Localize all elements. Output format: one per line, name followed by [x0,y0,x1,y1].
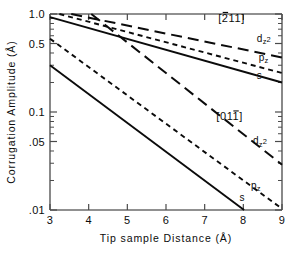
corrugation-amplitude-chart: 34567891.00.50.1.05.01 dz2pzs[211]dz2pzs… [0,0,296,257]
x-tick-label: 4 [85,214,91,226]
x-tick-label: 6 [163,214,169,226]
x-tick-label: 9 [279,214,285,226]
series-label-s: s [239,192,244,203]
curve-211-dz2 [71,14,282,57]
curve-annotations: dz2pzs[211]dz2pzs[011] [216,12,271,203]
curve-211-pz [59,14,282,73]
series-label-s: s [257,70,262,81]
y-tick-label: 1.0 [29,8,45,20]
plot-frame [50,14,282,210]
curve-011-pz [50,39,282,209]
y-tick-label: .01 [29,204,45,216]
y-axis-title: Corrugation Amplitude (Å) [5,40,17,183]
y-tick-label: 0.5 [29,38,45,50]
y-tick-label: 0.1 [29,106,45,118]
x-tick-label: 5 [124,214,130,226]
x-tick-label: 8 [240,214,246,226]
data-curves [50,14,282,210]
series-label-pz: pz [251,180,261,194]
x-axis-title: Tip sample Distance (Å) [100,232,232,244]
group-label-1: [011] [216,110,243,122]
series-label-dz2: dz2 [257,33,271,47]
y-tick-label: .05 [29,136,45,148]
curve-011-s [50,65,244,210]
axis-ticks [50,14,282,210]
figure-container: 34567891.00.50.1.05.01 dz2pzs[211]dz2pzs… [0,0,296,257]
x-tick-label: 7 [201,214,207,226]
series-label-dz2: dz2 [253,135,267,149]
series-label-pz: pz [259,52,269,66]
x-tick-label: 3 [47,214,53,226]
group-label-0: [211] [218,12,245,24]
